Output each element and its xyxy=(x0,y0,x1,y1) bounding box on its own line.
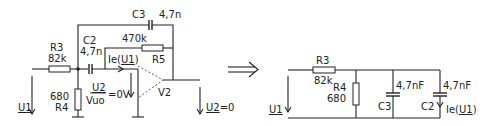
circuit-diagram: R3 82k C2 4,7n C3 4,7n 470k R5 Ie(U1) 68… xyxy=(0,0,489,126)
label-r3-name: R3 xyxy=(50,42,63,53)
implies-arrow-icon xyxy=(228,62,258,77)
label-c3-name: C3 xyxy=(378,101,391,112)
label-u1: U1 xyxy=(269,104,283,115)
label-r5-value: 470k xyxy=(122,33,147,44)
label-c3-value: 4,7nF xyxy=(396,80,424,91)
resistor-r3 xyxy=(49,66,70,72)
label-u1: U1 xyxy=(18,102,32,113)
label-r3-value: 82k xyxy=(314,75,333,86)
label-u2-fraction-num: U2 xyxy=(92,82,106,93)
label-r4-value: 680 xyxy=(327,93,346,104)
label-r4-name: R4 xyxy=(55,102,68,113)
label-opamp: V2 xyxy=(158,87,171,98)
label-c3-value: 4,7n xyxy=(159,9,181,20)
label-r3-value: 82k xyxy=(48,53,67,64)
label-u2-fraction-den: Vuo xyxy=(86,95,105,106)
left-circuit: R3 82k C2 4,7n C3 4,7n 470k R5 Ie(U1) 68… xyxy=(18,9,234,117)
label-u2-out: U2=0 xyxy=(206,102,234,113)
label-current: Ie(U1) xyxy=(446,104,477,115)
label-u2-eq: =0V xyxy=(108,89,130,100)
label-r5-name: R5 xyxy=(152,54,165,65)
right-circuit: R3 82k R4 680 4,7nF C3 4,7nF C2 Ie(U1) U… xyxy=(269,55,477,118)
resistor-r3 xyxy=(313,67,335,73)
resistor-r5 xyxy=(142,45,163,51)
label-current: Ie(U1) xyxy=(108,54,139,65)
resistor-r4 xyxy=(75,89,81,110)
resistor-r4 xyxy=(353,83,359,105)
label-c3-name: C3 xyxy=(132,9,145,20)
label-c2-value: 4,7nF xyxy=(443,80,471,91)
label-c2-name: C2 xyxy=(421,101,434,112)
label-r3-name: R3 xyxy=(316,55,329,66)
label-c2-value: 4,7n xyxy=(80,46,102,57)
label-c2-name: C2 xyxy=(83,35,96,46)
label-r4-name: R4 xyxy=(333,82,346,93)
label-r4-value: 680 xyxy=(50,91,69,102)
